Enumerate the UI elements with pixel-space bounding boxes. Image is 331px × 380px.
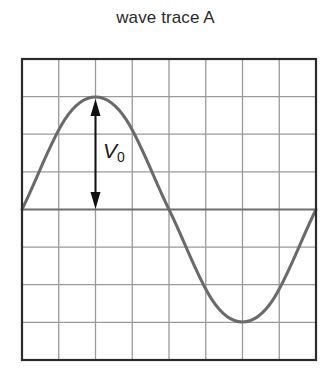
oscilloscope-grid xyxy=(0,0,331,380)
amplitude-arrow xyxy=(91,99,101,209)
amplitude-symbol: V xyxy=(103,139,117,162)
amplitude-subscript: 0 xyxy=(117,149,125,165)
arrowhead-up-icon xyxy=(91,99,101,116)
arrowhead-down-icon xyxy=(91,192,101,209)
amplitude-label: V0 xyxy=(103,140,125,164)
